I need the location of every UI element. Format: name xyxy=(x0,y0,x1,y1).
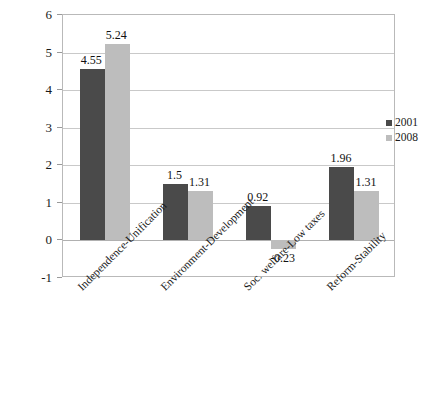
bar-value-label: 1.31 xyxy=(175,176,224,188)
bar-2001-2[interactable] xyxy=(246,206,271,241)
bar-2008-0[interactable] xyxy=(105,44,130,241)
bar-value-label: 1.31 xyxy=(341,176,390,188)
y-axis-tick-mark xyxy=(57,14,62,15)
legend: 2001 2008 xyxy=(386,116,418,146)
legend-item-2008[interactable]: 2008 xyxy=(386,131,418,144)
y-axis-tick-mark xyxy=(57,89,62,90)
y-axis-tick-mark xyxy=(57,277,62,278)
y-axis-tick-mark xyxy=(57,52,62,53)
y-axis-tick-mark xyxy=(57,239,62,240)
y-axis xyxy=(62,14,63,277)
y-axis-tick-mark xyxy=(57,202,62,203)
y-axis-tick-label: -1 xyxy=(26,271,52,284)
bar-value-label: 1.96 xyxy=(316,152,365,164)
legend-swatch-icon-2008 xyxy=(386,135,392,141)
y-axis-tick-label: 5 xyxy=(26,46,52,59)
gridline xyxy=(63,240,394,241)
plot-area xyxy=(62,14,395,277)
y-axis-tick-mark xyxy=(57,127,62,128)
bar-value-label: 4.55 xyxy=(67,54,116,66)
y-axis-tick-label: 3 xyxy=(26,121,52,134)
legend-item-2001[interactable]: 2001 xyxy=(386,116,418,129)
legend-swatch-icon-2001 xyxy=(386,120,392,126)
bar-2001-0[interactable] xyxy=(80,69,105,240)
bar-2001-1[interactable] xyxy=(163,184,188,240)
bar-chart: 6543210-1 4.555.241.51.310.92-0.231.961.… xyxy=(0,0,432,405)
bar-value-label: 5.24 xyxy=(92,29,141,41)
y-axis-tick-mark xyxy=(57,164,62,165)
legend-label-2001: 2001 xyxy=(395,117,418,129)
y-axis-tick-label: 2 xyxy=(26,158,52,171)
y-axis-tick-label: 4 xyxy=(26,83,52,96)
y-axis-tick-label: 1 xyxy=(26,196,52,209)
y-axis-tick-label: 0 xyxy=(26,233,52,246)
y-axis-tick-label: 6 xyxy=(26,8,52,21)
legend-label-2008: 2008 xyxy=(395,132,418,144)
